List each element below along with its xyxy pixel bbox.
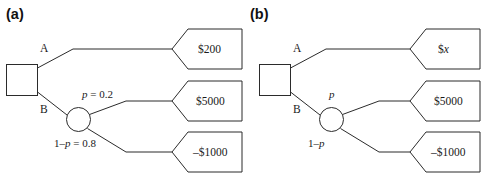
prob-symbol-p: p xyxy=(328,88,335,100)
chance-a-upper-line[interactable] xyxy=(90,101,173,115)
payoff-a-middle-text: $5000 xyxy=(196,95,225,107)
panel-b-label: (b) xyxy=(250,6,269,22)
chance-node-b[interactable] xyxy=(320,108,344,132)
branch-a-upper-line[interactable] xyxy=(38,49,173,68)
payoff-a-top-text: $200 xyxy=(198,43,221,55)
chance-b-upper-line[interactable] xyxy=(343,101,411,115)
branch-label-b-B: B xyxy=(293,103,301,115)
decision-node-a[interactable] xyxy=(7,65,38,96)
chance-a-lower-line[interactable] xyxy=(88,129,173,153)
prob-symbol-p: p xyxy=(318,137,325,149)
panel-b: (b) A B p 1–p xyxy=(244,0,488,181)
panel-a-canvas: (a) A B p = 0.2 1–p = 0.8 xyxy=(0,0,244,181)
prob-label-b-upper: p xyxy=(328,88,335,100)
decision-tree-figure: (a) A B p = 0.2 1–p = 0.8 xyxy=(0,0,488,181)
prob-label-a-lower: 1–p = 0.8 xyxy=(54,137,96,149)
chance-node-a[interactable] xyxy=(67,108,91,132)
payoff-b-middle-text: $5000 xyxy=(434,95,463,107)
prob-rest: = 0.2 xyxy=(88,88,113,100)
branch-label-a-A: A xyxy=(40,42,49,54)
decision-node-b[interactable] xyxy=(260,65,291,96)
branch-b-upper-line[interactable] xyxy=(291,49,411,68)
panel-a: (a) A B p = 0.2 1–p = 0.8 xyxy=(0,0,244,181)
chance-b-lower-line[interactable] xyxy=(341,129,411,153)
prob-rest: = 0.8 xyxy=(71,137,97,149)
panel-a-label: (a) xyxy=(6,6,24,22)
prob-prefix: 1– xyxy=(308,137,320,149)
prob-label-b-lower: 1–p xyxy=(308,137,325,149)
payoff-variable: x xyxy=(443,43,450,55)
payoff-b-top-text: $x xyxy=(438,43,450,55)
branch-label-a-B: B xyxy=(40,103,48,115)
prob-prefix: 1– xyxy=(54,137,66,149)
prob-label-a-upper: p = 0.2 xyxy=(81,88,113,100)
payoff-a-bottom-text: –$1000 xyxy=(192,146,228,158)
branch-label-b-A: A xyxy=(293,42,302,54)
panel-b-canvas: (b) A B p 1–p xyxy=(244,0,488,181)
payoff-b-bottom-text: –$1000 xyxy=(430,146,466,158)
